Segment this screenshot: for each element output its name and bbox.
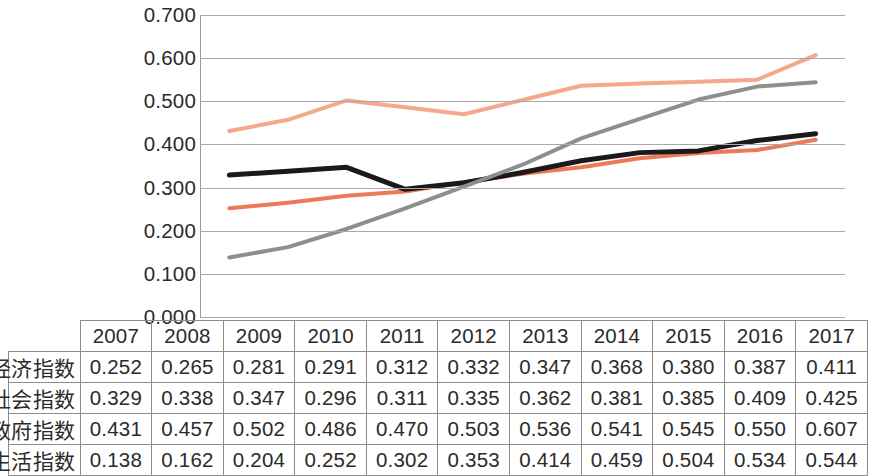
table-value-cell: 0.353: [438, 445, 510, 476]
y-tick-label: 0.500: [104, 91, 196, 111]
year-header-cell: 2009: [223, 321, 295, 352]
table-value-cell: 0.486: [295, 414, 367, 445]
line-chart: 0.7000.6000.5000.4000.3000.2000.1000.000: [0, 0, 876, 320]
table-value-cell: 0.607: [796, 414, 868, 445]
y-tick-label: 0.100: [104, 264, 196, 284]
table-value-cell: 0.541: [581, 414, 653, 445]
table-value-cell: 0.291: [295, 352, 367, 383]
table-value-cell: 0.347: [510, 352, 582, 383]
legend-label: 在线政府指数: [0, 414, 76, 444]
table-value-cell: 0.332: [438, 352, 510, 383]
gridline: [200, 58, 845, 59]
table-value-cell: 0.138: [80, 445, 152, 476]
table-value-cell: 0.536: [510, 414, 582, 445]
year-header-cell: 2013: [510, 321, 582, 352]
y-tick-label: 0.400: [104, 134, 196, 154]
table-value-cell: 0.534: [724, 445, 796, 476]
table-value-cell: 0.281: [223, 352, 295, 383]
series-lines: [200, 15, 845, 317]
legend-item[interactable]: 信息经济指数: [9, 352, 81, 383]
y-tick-label: 0.600: [104, 48, 196, 68]
table-corner-cell: [9, 321, 81, 352]
gridline: [200, 15, 845, 16]
table-value-cell: 0.385: [653, 383, 725, 414]
table-row: 信息经济指数0.2520.2650.2810.2910.3120.3320.34…: [9, 352, 868, 383]
gridline: [200, 101, 845, 102]
y-axis: 0.7000.6000.5000.4000.3000.2000.1000.000: [104, 0, 196, 320]
table-value-cell: 0.296: [295, 383, 367, 414]
table-value-cell: 0.204: [223, 445, 295, 476]
year-header-cell: 2012: [438, 321, 510, 352]
year-header-cell: 2008: [152, 321, 224, 352]
legend-label: 信息经济指数: [0, 352, 76, 382]
y-tick-label: 0.300: [104, 178, 196, 198]
table-value-cell: 0.470: [366, 414, 438, 445]
table-value-cell: 0.431: [80, 414, 152, 445]
table-value-cell: 0.425: [796, 383, 868, 414]
year-header-cell: 2007: [80, 321, 152, 352]
table-value-cell: 0.545: [653, 414, 725, 445]
table-value-cell: 0.504: [653, 445, 725, 476]
table-value-cell: 0.409: [724, 383, 796, 414]
table-value-cell: 0.368: [581, 352, 653, 383]
legend-item[interactable]: 数字生活指数: [9, 445, 81, 476]
table-value-cell: 0.550: [724, 414, 796, 445]
table-value-cell: 0.329: [80, 383, 152, 414]
table-value-cell: 0.503: [438, 414, 510, 445]
table-row: 网络社会指数0.3290.3380.3470.2960.3110.3350.36…: [9, 383, 868, 414]
y-tick-label: 0.700: [104, 5, 196, 25]
gridline: [200, 274, 845, 275]
table-value-cell: 0.362: [510, 383, 582, 414]
table-value-cell: 0.338: [152, 383, 224, 414]
plot-area: [200, 15, 845, 317]
table-value-cell: 0.302: [366, 445, 438, 476]
table-value-cell: 0.252: [80, 352, 152, 383]
table-value-cell: 0.387: [724, 352, 796, 383]
year-header-cell: 2017: [796, 321, 868, 352]
data-table: 2007200820092010201120122013201420152016…: [8, 320, 868, 476]
table-value-cell: 0.311: [366, 383, 438, 414]
table-value-cell: 0.502: [223, 414, 295, 445]
table-row: 在线政府指数0.4310.4570.5020.4860.4700.5030.53…: [9, 414, 868, 445]
table-value-cell: 0.411: [796, 352, 868, 383]
table-value-cell: 0.544: [796, 445, 868, 476]
legend-label: 网络社会指数: [0, 383, 76, 413]
legend-item[interactable]: 在线政府指数: [9, 414, 81, 445]
gridline: [200, 144, 845, 145]
table-value-cell: 0.252: [295, 445, 367, 476]
table-value-cell: 0.414: [510, 445, 582, 476]
year-header-cell: 2015: [653, 321, 725, 352]
gridline: [200, 231, 845, 232]
year-header-cell: 2011: [366, 321, 438, 352]
series-line: [229, 134, 815, 190]
year-header-cell: 2010: [295, 321, 367, 352]
y-tick-label: 0.200: [104, 221, 196, 241]
table-value-cell: 0.347: [223, 383, 295, 414]
year-header-cell: 2014: [581, 321, 653, 352]
gridline: [200, 317, 845, 318]
year-header-cell: 2016: [724, 321, 796, 352]
table-value-cell: 0.265: [152, 352, 224, 383]
legend-item[interactable]: 网络社会指数: [9, 383, 81, 414]
table-value-cell: 0.457: [152, 414, 224, 445]
table-value-cell: 0.380: [653, 352, 725, 383]
table-value-cell: 0.381: [581, 383, 653, 414]
table-value-cell: 0.459: [581, 445, 653, 476]
table-header-row: 2007200820092010201120122013201420152016…: [9, 321, 868, 352]
legend-label: 数字生活指数: [0, 445, 76, 475]
table-value-cell: 0.335: [438, 383, 510, 414]
table-row: 数字生活指数0.1380.1620.2040.2520.3020.3530.41…: [9, 445, 868, 476]
table-value-cell: 0.162: [152, 445, 224, 476]
gridline: [200, 188, 845, 189]
table-value-cell: 0.312: [366, 352, 438, 383]
